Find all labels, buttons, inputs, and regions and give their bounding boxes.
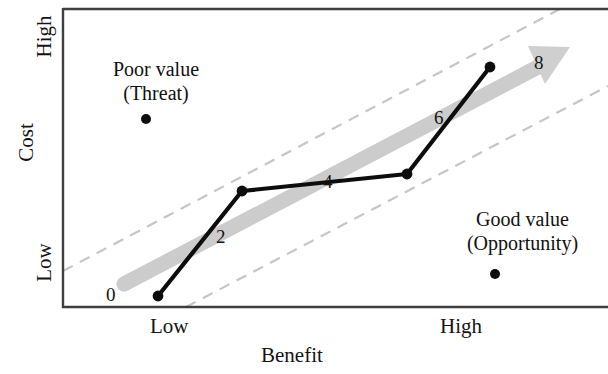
value-chart-figure: Cost High Low Benefit Low High Poor valu… [0, 0, 608, 374]
point-label-2: 2 [216, 226, 226, 248]
plot-frame [62, 8, 608, 308]
point-label-8: 8 [534, 52, 544, 74]
poor-value-marker [141, 114, 151, 124]
chart-canvas [0, 0, 608, 374]
value-boundary-lines [63, 9, 608, 307]
good-value-line1: Good value [440, 208, 605, 232]
good-value-line2: (Opportunity) [440, 232, 605, 256]
x-axis-tick-high: High [440, 314, 482, 339]
y-axis-tick-high: High [32, 7, 57, 67]
poor-value-annotation: Poor value (Threat) [96, 58, 216, 105]
point-label-4: 4 [323, 171, 333, 193]
good-value-marker [490, 269, 500, 279]
poor-value-line1: Poor value [96, 58, 216, 82]
data-point-2 [237, 186, 248, 197]
x-axis-tick-low: Low [150, 314, 189, 339]
data-point-6 [485, 62, 496, 73]
point-label-6: 6 [434, 107, 444, 129]
lower-boundary-dashed [186, 86, 608, 307]
y-axis-title: Cost [14, 113, 39, 173]
point-label-0: 0 [106, 284, 116, 306]
poor-value-line2: (Threat) [96, 82, 216, 106]
y-axis-tick-low: Low [32, 233, 57, 293]
good-value-annotation: Good value (Opportunity) [440, 208, 605, 255]
data-point-4 [402, 169, 413, 180]
data-point-0 [153, 291, 164, 302]
x-axis-title: Benefit [261, 343, 323, 368]
